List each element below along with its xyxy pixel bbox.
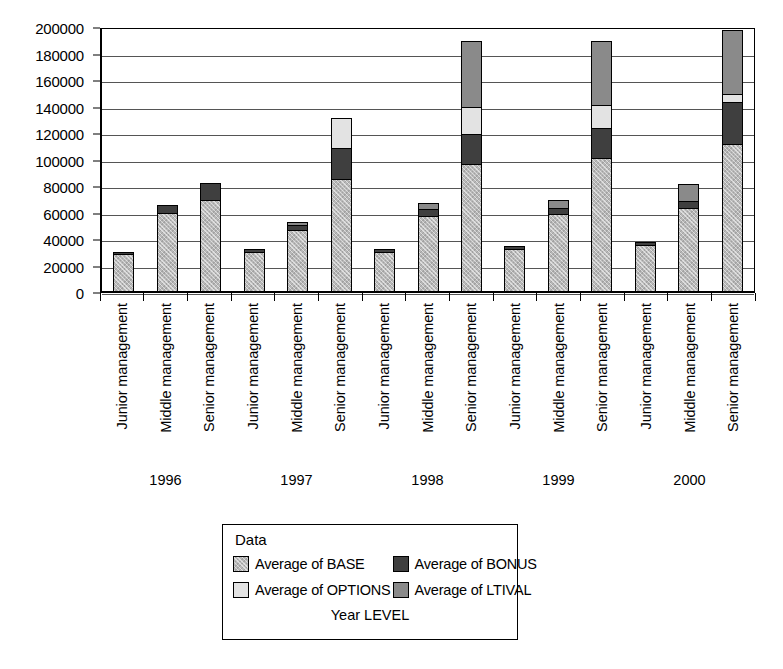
bar-slot (667, 29, 710, 291)
bar-segment[interactable] (549, 215, 568, 291)
bar-segment[interactable] (375, 253, 394, 291)
bar-segment[interactable] (679, 185, 698, 202)
stacked-bar[interactable] (418, 203, 439, 291)
bar-segment[interactable] (201, 201, 220, 291)
y-axis-tick-mark (93, 54, 100, 55)
bar-segment[interactable] (158, 206, 177, 214)
legend-item[interactable]: Average of BONUS (393, 556, 537, 572)
bar-segment[interactable] (158, 214, 177, 291)
bar-segment[interactable] (462, 108, 481, 135)
stacked-bar[interactable] (374, 249, 395, 291)
bar-segment[interactable] (462, 135, 481, 165)
x-axis-category-cell: Junior management (362, 303, 406, 468)
x-axis-tick (231, 293, 275, 301)
x-axis-category-label: Middle management (551, 303, 567, 433)
stacked-bar[interactable] (331, 118, 352, 291)
x-axis-category-cell: Senior management (580, 303, 624, 468)
stacked-bar[interactable] (157, 205, 178, 291)
bar-segment[interactable] (419, 204, 438, 211)
bar-segment[interactable] (592, 159, 611, 292)
bar-segment[interactable] (332, 119, 351, 149)
stacked-bar[interactable] (635, 242, 656, 291)
bar-segment[interactable] (592, 129, 611, 158)
bar-segment[interactable] (723, 31, 742, 95)
x-axis-year-label: 1996 (100, 472, 231, 494)
x-axis-category-cell: Middle management (537, 303, 581, 468)
bar-segment[interactable] (245, 253, 264, 291)
y-axis-tick-label: 0 (76, 285, 84, 302)
bar-slot (145, 29, 188, 291)
bar-slot (450, 29, 493, 291)
x-axis-tick (275, 293, 319, 301)
bar-segment[interactable] (636, 246, 655, 291)
x-axis-tick (580, 293, 624, 301)
y-axis-tick-label: 200000 (35, 20, 84, 37)
bar-segment[interactable] (549, 201, 568, 209)
y-axis-tick-mark (93, 187, 100, 188)
stacked-bar[interactable] (678, 184, 699, 291)
bar-slot (189, 29, 232, 291)
stacked-bar[interactable] (113, 252, 134, 291)
x-axis-year-label: 2000 (624, 472, 755, 494)
legend-swatch-icon (393, 556, 409, 572)
x-axis-category-cell: Senior management (187, 303, 231, 468)
stacked-bar[interactable] (591, 41, 612, 291)
x-axis-category-cell: Middle management (275, 303, 319, 468)
legend-item-label: Average of BASE (255, 556, 365, 572)
y-axis-tick-label: 80000 (43, 179, 84, 196)
bar-segment[interactable] (592, 42, 611, 106)
x-axis-category-label: Middle management (420, 303, 436, 433)
bar-segment[interactable] (114, 255, 133, 291)
x-axis-category-label: Junior management (376, 303, 392, 429)
bar-segment[interactable] (462, 42, 481, 108)
y-axis-tick-label: 60000 (43, 205, 84, 222)
x-axis-category-cell: Junior management (100, 303, 144, 468)
bar-slot (624, 29, 667, 291)
y-axis-tick-mark (93, 213, 100, 214)
legend-item-label: Average of LTIVAL (415, 582, 532, 598)
x-axis-category-label: Senior management (594, 303, 610, 432)
stacked-bar[interactable] (504, 246, 525, 291)
bar-segment[interactable] (679, 202, 698, 209)
bar-segment[interactable] (723, 145, 742, 291)
y-axis-tick-mark (93, 266, 100, 267)
x-axis-tick (449, 293, 493, 301)
bar-segment[interactable] (592, 106, 611, 130)
bar-segment[interactable] (723, 103, 742, 145)
stacked-bar[interactable] (461, 41, 482, 291)
bar-segment[interactable] (201, 184, 220, 201)
x-axis-year-label: 1997 (231, 472, 362, 494)
bar-segment[interactable] (288, 231, 307, 291)
bar-segment[interactable] (419, 210, 438, 217)
bar-segment[interactable] (332, 180, 351, 291)
stacked-bar[interactable] (200, 183, 221, 291)
x-axis-tick (711, 293, 755, 301)
bar-segment[interactable] (332, 149, 351, 179)
stacked-bar[interactable] (287, 222, 308, 291)
y-axis-tick-label: 40000 (43, 232, 84, 249)
legend-item[interactable]: Average of LTIVAL (393, 582, 537, 598)
stacked-bar[interactable] (244, 249, 265, 291)
x-axis-category-label: Middle management (158, 303, 174, 433)
x-axis-tick (187, 293, 231, 301)
stacked-bar[interactable] (548, 200, 569, 291)
x-axis-category-cell: Senior management (449, 303, 493, 468)
bar-slot (537, 29, 580, 291)
x-axis-category-cell: Junior management (231, 303, 275, 468)
x-axis-tick (362, 293, 406, 301)
bar-segment[interactable] (505, 250, 524, 291)
legend-item[interactable]: Average of OPTIONS (233, 582, 391, 598)
bar-segment[interactable] (462, 165, 481, 291)
stacked-bar[interactable] (722, 30, 743, 291)
bar-segment[interactable] (723, 95, 742, 103)
x-axis-category-cell: Middle management (144, 303, 188, 468)
x-axis-category-cell: Middle management (406, 303, 450, 468)
bar-segment[interactable] (419, 217, 438, 291)
bar-segment[interactable] (549, 209, 568, 216)
bar-slot (102, 29, 145, 291)
x-axis-category-label: Middle management (289, 303, 305, 433)
bar-slot (319, 29, 362, 291)
x-axis-category-cell: Junior management (493, 303, 537, 468)
bar-segment[interactable] (679, 209, 698, 291)
legend-item[interactable]: Average of BASE (233, 556, 391, 572)
